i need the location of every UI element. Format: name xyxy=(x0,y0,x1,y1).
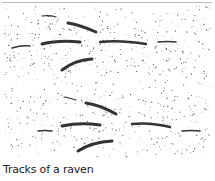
caption: Tracks of a raven xyxy=(3,163,93,176)
raven-tracks-illustration xyxy=(0,0,215,160)
